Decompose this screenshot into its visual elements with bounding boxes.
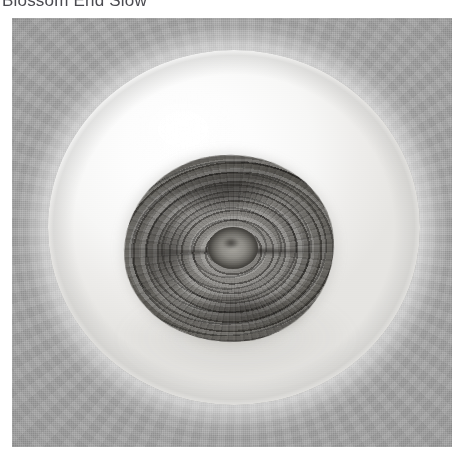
image-vignette: [12, 18, 452, 447]
page-title: Blossom End Slow: [2, 0, 147, 11]
caption-area: Blossom End Slow: [0, 0, 465, 13]
specimen-image-panel[interactable]: [12, 18, 452, 447]
page-root: Blossom End Slow: [0, 0, 465, 456]
